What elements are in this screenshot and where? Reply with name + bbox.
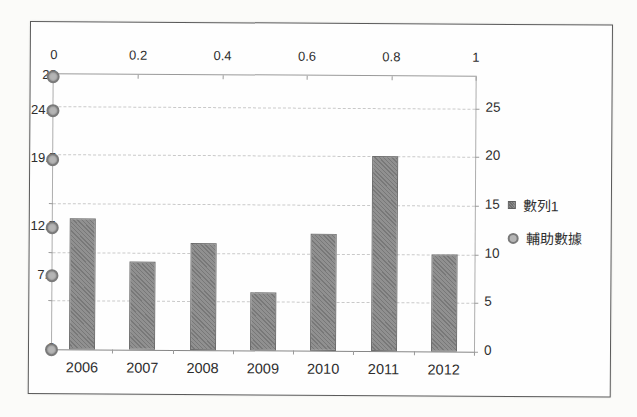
top-axis-tick bbox=[222, 75, 223, 79]
top-axis-tick bbox=[307, 76, 308, 80]
scatter-point bbox=[46, 104, 59, 117]
bar-2012 bbox=[431, 254, 458, 352]
scatter-point bbox=[46, 153, 59, 166]
bottom-axis-tick bbox=[233, 350, 234, 354]
right-axis-tick-label: 5 bbox=[484, 294, 514, 310]
legend-label-aux-data: 輔助數據 bbox=[526, 228, 582, 248]
category-label-2009: 2009 bbox=[232, 360, 294, 376]
left-axis-tick bbox=[48, 300, 52, 301]
top-axis-tick-label: 0.4 bbox=[213, 48, 231, 64]
top-axis-tick-label: 0.2 bbox=[129, 48, 147, 64]
plot-area: 00.20.40.60.8125201510502006200720082009… bbox=[51, 73, 477, 353]
bar-2011 bbox=[371, 156, 398, 351]
bar-2009 bbox=[250, 292, 276, 351]
bottom-axis-tick bbox=[173, 350, 174, 354]
gridline bbox=[53, 106, 475, 110]
bar-2010 bbox=[310, 234, 337, 351]
scatter-point bbox=[47, 70, 60, 83]
category-label-2010: 2010 bbox=[292, 361, 354, 377]
right-axis-tick bbox=[475, 206, 479, 207]
top-axis-tick-label: 0 bbox=[50, 47, 57, 63]
gridline bbox=[53, 154, 475, 158]
right-axis-tick bbox=[474, 303, 478, 304]
bar-2008 bbox=[190, 243, 217, 350]
category-label-2012: 2012 bbox=[413, 361, 475, 377]
right-axis-tick-label: 0 bbox=[484, 343, 514, 359]
category-label-2007: 2007 bbox=[111, 360, 173, 376]
gridline bbox=[53, 203, 475, 207]
bottom-axis-tick bbox=[353, 351, 354, 355]
scatter-point bbox=[45, 270, 58, 283]
scatter-point bbox=[45, 343, 58, 356]
category-label-2011: 2011 bbox=[352, 361, 414, 377]
chart-figure: 00.20.40.60.8125201510502006200720082009… bbox=[28, 21, 613, 398]
legend-item-series1: 數列1 bbox=[508, 195, 582, 215]
left-axis-tick bbox=[49, 203, 53, 204]
bottom-axis-tick bbox=[293, 351, 294, 355]
legend-item-aux-data: 輔助數據 bbox=[508, 228, 582, 248]
left-axis-tick bbox=[49, 252, 53, 253]
bar-2006 bbox=[69, 218, 96, 350]
legend: 數列1 輔助數據 bbox=[508, 195, 582, 248]
top-axis-tick-label: 0.8 bbox=[382, 49, 400, 65]
top-axis-tick bbox=[476, 77, 477, 81]
right-axis-tick bbox=[475, 157, 479, 158]
bar-series-marker-icon bbox=[508, 201, 516, 209]
top-axis-tick bbox=[391, 76, 392, 80]
category-label-2008: 2008 bbox=[172, 360, 234, 376]
legend-label-series1: 數列1 bbox=[523, 195, 559, 215]
bar-2007 bbox=[129, 262, 156, 350]
bottom-axis-tick bbox=[474, 352, 475, 356]
right-axis-tick-label: 20 bbox=[485, 148, 515, 164]
scatter-series-marker-icon bbox=[508, 232, 519, 243]
bottom-axis-tick bbox=[112, 350, 113, 354]
top-axis-tick-label: 0.6 bbox=[298, 49, 316, 65]
right-axis-tick bbox=[475, 254, 479, 255]
bottom-axis-tick bbox=[414, 351, 415, 355]
top-axis-tick-label: 1 bbox=[472, 50, 479, 66]
category-label-2006: 2006 bbox=[51, 359, 113, 375]
right-axis-tick-label: 25 bbox=[485, 99, 515, 115]
scatter-point bbox=[46, 221, 59, 234]
top-axis-tick bbox=[138, 75, 139, 79]
right-axis-tick bbox=[475, 108, 479, 109]
gridline bbox=[53, 252, 475, 256]
